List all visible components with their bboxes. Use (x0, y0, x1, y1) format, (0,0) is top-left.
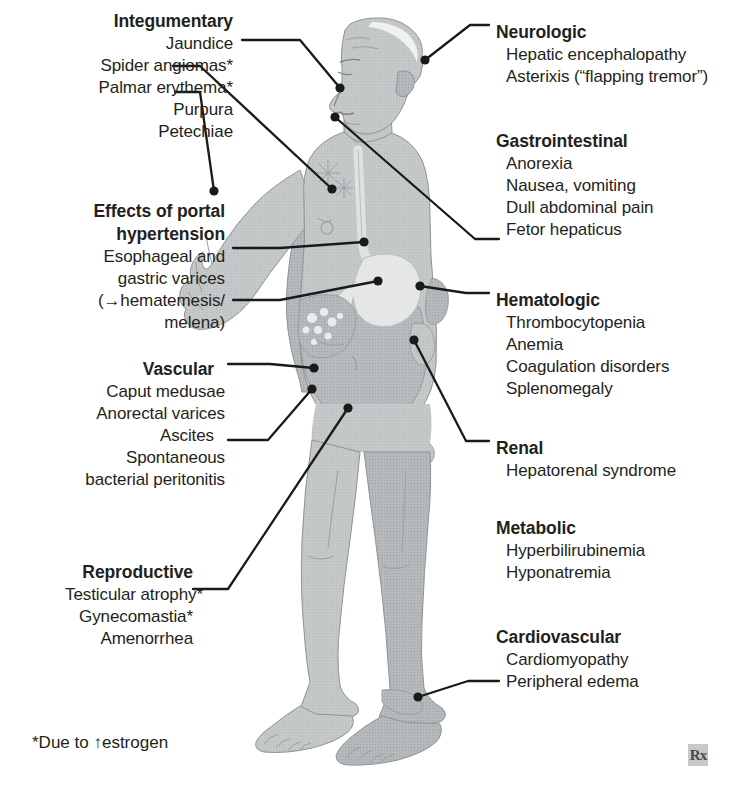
item-thrombocytopenia: Thrombocytopenia (496, 312, 669, 334)
item-melena: melena) (93, 312, 225, 334)
item-gastric-varices: gastric varices (93, 268, 225, 290)
item-nausea-vomiting: Nausea, vomiting (496, 175, 653, 197)
group-hematologic: Hematologic Thrombocytopenia Anemia Coag… (496, 289, 669, 400)
group-heading-hematologic: Hematologic (496, 289, 669, 312)
group-heading-portal-hypertension-line2: hypertension (93, 223, 225, 246)
item-purpura: Purpura (99, 99, 233, 121)
item-hepatorenal-syndrome: Hepatorenal syndrome (496, 460, 676, 482)
group-heading-neurologic: Neurologic (496, 21, 708, 44)
cirrhosis-manifestations-diagram: Integumentary Jaundice Spider angiomas* … (0, 0, 732, 786)
item-ascites: Ascites (85, 425, 225, 447)
item-asterixis: Asterixis (“flapping tremor”) (496, 66, 708, 88)
group-portal-hypertension: Effects of portal hypertension Esophagea… (93, 200, 225, 334)
item-splenomegaly: Splenomegaly (496, 378, 669, 400)
item-hematemesis: (→hematemesis/ (93, 290, 225, 312)
group-reproductive: Reproductive Testicular atrophy* Gynecom… (65, 561, 193, 650)
group-heading-vascular: Vascular (85, 358, 225, 381)
item-hyponatremia: Hyponatremia (496, 562, 645, 584)
item-hyperbilirubinemia: Hyperbilirubinemia (496, 540, 645, 562)
group-neurologic: Neurologic Hepatic encephalopathy Asteri… (496, 21, 708, 88)
item-caput-medusae: Caput medusae (85, 381, 225, 403)
group-heading-portal-hypertension-line1: Effects of portal (93, 200, 225, 223)
group-integumentary: Integumentary Jaundice Spider angiomas* … (99, 10, 233, 143)
item-anorexia: Anorexia (496, 153, 653, 175)
item-spider-angiomas: Spider angiomas* (99, 55, 233, 77)
item-anemia: Anemia (496, 334, 669, 356)
item-bacterial-peritonitis: bacterial peritonitis (85, 469, 225, 491)
group-renal: Renal Hepatorenal syndrome (496, 437, 676, 482)
group-heading-renal: Renal (496, 437, 676, 460)
group-heading-gastrointestinal: Gastrointestinal (496, 130, 653, 153)
item-petechiae: Petechiae (99, 121, 233, 143)
item-testicular-atrophy: Testicular atrophy* (65, 584, 203, 606)
group-gastrointestinal: Gastrointestinal Anorexia Nausea, vomiti… (496, 130, 653, 241)
item-hepatic-encephalopathy: Hepatic encephalopathy (496, 44, 708, 66)
group-heading-cardiovascular: Cardiovascular (496, 626, 639, 649)
item-esophageal-and: Esophageal and (93, 246, 225, 268)
group-cardiovascular: Cardiovascular Cardiomyopathy Peripheral… (496, 626, 639, 693)
item-jaundice: Jaundice (99, 33, 233, 55)
item-peripheral-edema: Peripheral edema (496, 671, 639, 693)
item-coagulation-disorders: Coagulation disorders (496, 356, 669, 378)
item-cardiomyopathy: Cardiomyopathy (496, 649, 639, 671)
group-heading-integumentary: Integumentary (99, 10, 233, 33)
item-dull-abdominal-pain: Dull abdominal pain (496, 197, 653, 219)
group-metabolic: Metabolic Hyperbilirubinemia Hyponatremi… (496, 517, 645, 584)
rx-watermark: Rx (688, 744, 708, 766)
item-amenorrhea: Amenorrhea (65, 628, 193, 650)
item-palmar-erythema: Palmar erythema* (99, 77, 233, 99)
item-spontaneous: Spontaneous (85, 447, 225, 469)
item-gynecomastia: Gynecomastia* (65, 606, 193, 628)
footnote-estrogen: *Due to ↑estrogen (32, 733, 168, 753)
item-fetor-hepaticus: Fetor hepaticus (496, 219, 653, 241)
group-heading-metabolic: Metabolic (496, 517, 645, 540)
group-vascular: Vascular Caput medusae Anorectal varices… (85, 358, 225, 491)
item-anorectal-varices: Anorectal varices (85, 403, 225, 425)
group-heading-reproductive: Reproductive (65, 561, 193, 584)
